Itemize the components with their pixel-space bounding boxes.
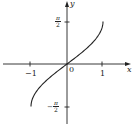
y-axis-arrow-icon	[65, 1, 69, 7]
y-tick-neg-sign: −	[47, 104, 53, 111]
x-tick-label-neg1: −1	[25, 70, 37, 78]
plot-area	[0, 0, 135, 131]
y-tick-label-pi-half: π 2	[55, 15, 61, 28]
y-tick-label-neg-pi-half: π 2	[53, 100, 59, 113]
y-axis-label: y	[70, 0, 75, 8]
x-axis-label: x	[127, 66, 132, 74]
origin-label: 0	[69, 66, 74, 74]
x-tick-label-1: 1	[100, 70, 105, 78]
